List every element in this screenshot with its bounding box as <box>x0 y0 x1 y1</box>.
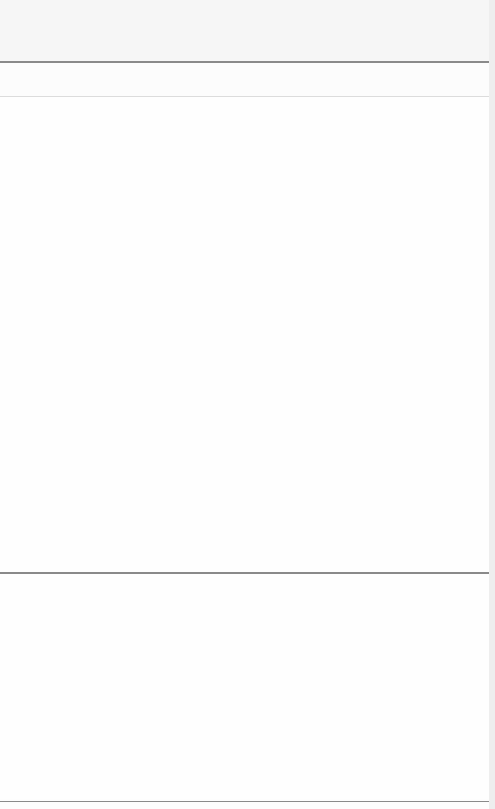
header-band <box>0 63 495 96</box>
upper-content-panel <box>0 97 489 572</box>
top-toolbar <box>0 0 495 61</box>
bottom-divider <box>0 801 495 802</box>
window-edge <box>489 0 495 809</box>
lower-content-panel <box>0 574 489 799</box>
